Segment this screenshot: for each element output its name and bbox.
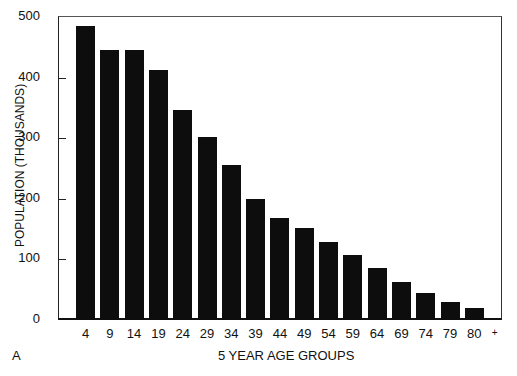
bar-9 [100,50,119,320]
y-tick-mark [58,138,66,139]
bar-80 [465,308,484,320]
bar-24 [173,110,192,320]
x-tick-label: 39 [243,326,269,341]
bar-29 [198,137,217,320]
bar-19 [149,70,168,320]
x-tick-label: 24 [170,326,196,341]
x-tick-label: 44 [267,326,293,341]
bar-74 [416,293,435,320]
bar-14 [125,50,144,320]
y-tick-label: 400 [4,69,40,84]
x-tick-label: 4 [73,326,99,341]
y-axis-label: POPULATION (THOUSANDS) [13,87,27,247]
x-tick-label: 34 [218,326,244,341]
x-tick-label: 9 [97,326,123,341]
x-tick-label: 49 [291,326,317,341]
bar-39 [246,199,265,320]
bar-79 [441,302,460,320]
x-tick-label: 59 [340,326,366,341]
x-tick-label: 80 [461,326,487,341]
bar-34 [222,165,241,320]
x-tick-label: 54 [316,326,342,341]
x-tick-suffix: + [492,327,498,338]
x-tick-label: 69 [388,326,414,341]
bar-69 [392,282,411,320]
y-tick-label: 0 [4,311,40,326]
y-tick-mark [58,199,66,200]
y-tick-label: 100 [4,250,40,265]
bar-59 [343,255,362,320]
x-axis-label: 5 YEAR AGE GROUPS [218,348,354,363]
x-tick-label: 64 [364,326,390,341]
x-tick-label: 79 [437,326,463,341]
y-tick-mark [58,259,66,260]
x-tick-label: 19 [145,326,171,341]
y-tick-label: 500 [4,8,40,23]
population-bar-chart: 0100200300400500 49141924293439444954596… [0,0,517,376]
bar-49 [295,228,314,320]
y-tick-mark [58,78,66,79]
x-tick-label: 29 [194,326,220,341]
panel-label: A [12,348,21,363]
bar-54 [319,242,338,320]
x-tick-label: 74 [413,326,439,341]
bar-44 [270,218,289,320]
bar-64 [368,268,387,320]
bar-4 [76,26,95,320]
x-tick-label: 14 [121,326,147,341]
